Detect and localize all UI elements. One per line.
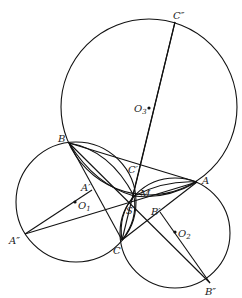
segment-b2-bp bbox=[160, 212, 210, 283]
segment-a2-ap bbox=[25, 190, 92, 234]
segment-a2-a bbox=[25, 182, 197, 234]
label-a2: A″ bbox=[8, 235, 20, 246]
arc-bm bbox=[69, 143, 134, 196]
segment-bc bbox=[69, 143, 122, 240]
label-b: B bbox=[57, 133, 65, 144]
arc-bm-2 bbox=[69, 143, 134, 196]
center-o3-dot bbox=[147, 106, 150, 109]
label-a: A bbox=[201, 175, 209, 186]
label-bp: B′ bbox=[150, 206, 161, 217]
center-o1-dot bbox=[73, 200, 76, 203]
label-o2: O2 bbox=[178, 228, 191, 241]
label-cp: C′ bbox=[128, 164, 139, 175]
label-m: M bbox=[139, 188, 151, 199]
label-s: S bbox=[126, 205, 133, 216]
label-c2: C″ bbox=[173, 10, 185, 21]
center-o2-dot bbox=[173, 230, 176, 233]
label-ap: A′ bbox=[80, 182, 91, 193]
label-c: C bbox=[113, 245, 121, 256]
label-o3: O3 bbox=[134, 103, 147, 116]
geometry-diagram: C″ O3 B C′ A A′ M O1 S B′ O2 A″ C B″ bbox=[0, 0, 242, 298]
label-b2: B″ bbox=[204, 286, 216, 297]
label-o1: O1 bbox=[78, 200, 91, 213]
